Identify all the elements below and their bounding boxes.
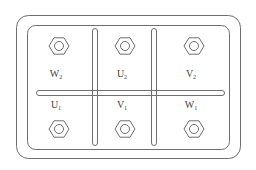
- bolt-hole-icon: [121, 42, 130, 51]
- horizontal-channel: [37, 91, 225, 96]
- bolt-hole-icon: [55, 125, 64, 134]
- terminal-u2: U2: [115, 38, 135, 80]
- channel-junction-left: [93, 91, 97, 95]
- bolt-hole-icon: [190, 42, 199, 51]
- hex-nut-icon: [184, 121, 204, 137]
- terminal-v2: V2: [184, 38, 204, 80]
- bolt-hole-icon: [55, 42, 64, 51]
- terminal-w1: W1: [184, 99, 204, 137]
- hex-nut-icon: [115, 38, 135, 54]
- terminal-label: V1: [117, 99, 127, 111]
- channel-junction-right: [152, 91, 156, 95]
- terminal-label: W2: [50, 68, 62, 80]
- hex-nut-icon: [49, 121, 69, 137]
- hex-nut-icon: [49, 38, 69, 54]
- terminal-label: U2: [117, 68, 127, 80]
- terminals: W2U2V2U1V1W1: [49, 38, 204, 137]
- bolt-hole-icon: [190, 125, 199, 134]
- vertical-channel-right: [152, 29, 157, 146]
- terminal-v1: V1: [115, 99, 135, 137]
- terminal-label: U1: [51, 99, 61, 111]
- terminal-w2: W2: [49, 38, 69, 80]
- hex-nut-icon: [184, 38, 204, 54]
- bolt-hole-icon: [121, 125, 130, 134]
- vertical-channel-left: [93, 29, 98, 146]
- terminal-label: V2: [186, 68, 196, 80]
- hex-nut-icon: [115, 121, 135, 137]
- inner-frame: [28, 26, 230, 150]
- terminal-box-diagram: W2U2V2U1V1W1: [0, 0, 256, 170]
- terminal-u1: U1: [49, 99, 69, 137]
- terminal-label: W1: [185, 99, 197, 111]
